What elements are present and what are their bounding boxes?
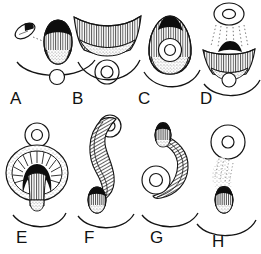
donut-circle-inside — [159, 39, 182, 62]
donut-circle-top — [25, 123, 49, 147]
donut-circle-top — [214, 3, 244, 25]
donut-circle — [142, 166, 170, 194]
panel-label-f: F — [84, 228, 94, 247]
dark-capped-ovoid — [88, 187, 106, 213]
dark-capped-ovoid-top — [155, 122, 171, 147]
donut-circle-top — [211, 125, 245, 159]
figure-canvas: A B C — [0, 0, 261, 254]
panel-label-h: H — [212, 232, 224, 251]
large-hatched-ovoid — [44, 20, 72, 64]
donut-circle — [95, 60, 119, 84]
panel-label-b: B — [72, 89, 83, 108]
panel-label-c: C — [138, 89, 150, 108]
panel-label-d: D — [200, 89, 212, 108]
small-circle — [222, 73, 236, 87]
hatched-cone — [28, 173, 46, 211]
figure-root: A B C — [0, 0, 261, 254]
panel-label-e: E — [16, 228, 27, 247]
panel-label-g: G — [150, 228, 163, 247]
panel-label-a: A — [10, 89, 22, 108]
dark-capped-ovoid — [215, 186, 233, 213]
small-open-circle — [50, 70, 65, 85]
